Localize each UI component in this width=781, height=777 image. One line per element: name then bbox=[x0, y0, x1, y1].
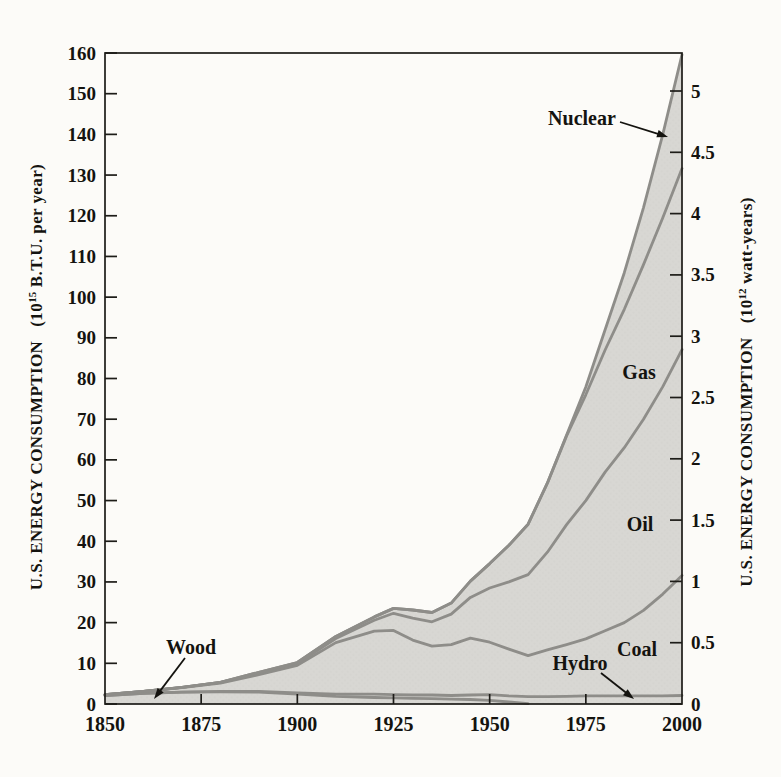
left-axis-title-text: U.S. ENERGY CONSUMPTION bbox=[27, 341, 46, 590]
chart-canvas: 0102030405060708090100110120130140150160… bbox=[0, 0, 781, 777]
y-left-tick-label: 150 bbox=[68, 83, 97, 104]
y-left-tick-label: 140 bbox=[68, 124, 97, 145]
us-energy-consumption-figure: 0102030405060708090100110120130140150160… bbox=[0, 0, 781, 777]
x-tick-label: 1925 bbox=[374, 713, 414, 735]
y-left-tick-label: 100 bbox=[68, 287, 97, 308]
y-left-tick-label: 10 bbox=[77, 653, 96, 674]
y-right-tick-label: 0 bbox=[691, 694, 701, 715]
y-right-tick-label: 3 bbox=[691, 326, 701, 347]
left-axis-unit: (1015 B.T.U. per year) bbox=[27, 164, 46, 327]
x-tick-label: 1850 bbox=[85, 713, 125, 735]
y-left-tick-label: 120 bbox=[68, 205, 97, 226]
y-left-tick-label: 20 bbox=[77, 612, 96, 633]
y-right-tick-label: 0.5 bbox=[691, 632, 715, 653]
x-tick-label: 1975 bbox=[566, 713, 606, 735]
y-left-tick-label: 130 bbox=[68, 165, 97, 186]
left-axis-exponent: 15 bbox=[26, 292, 38, 303]
y-right-tick-label: 2 bbox=[691, 448, 701, 469]
y-right-tick-label: 3.5 bbox=[691, 264, 715, 285]
y-right-tick-label: 4.5 bbox=[691, 142, 715, 163]
y-right-tick-label: 5 bbox=[691, 81, 701, 102]
x-tick-label: 1900 bbox=[277, 713, 317, 735]
y-left-tick-label: 60 bbox=[77, 449, 96, 470]
y-right-tick-label: 1 bbox=[691, 571, 701, 592]
annotation-label-coal: Coal bbox=[617, 638, 657, 660]
y-left-tick-label: 30 bbox=[77, 571, 96, 592]
left-axis-title: U.S. ENERGY CONSUMPTION(1015 B.T.U. per … bbox=[26, 164, 47, 590]
annotation-label-wood: Wood bbox=[166, 636, 216, 658]
y-left-tick-label: 160 bbox=[68, 43, 97, 64]
y-right-tick-label: 1.5 bbox=[691, 510, 715, 531]
y-left-tick-label: 80 bbox=[77, 368, 96, 389]
annotation-arrow-nuclear bbox=[620, 122, 660, 135]
y-left-tick-label: 0 bbox=[87, 694, 97, 715]
right-axis-title-text: U.S. ENERGY CONSUMPTION bbox=[737, 337, 756, 586]
annotation-label-hydro: Hydro bbox=[552, 652, 607, 675]
y-left-tick-label: 50 bbox=[77, 490, 96, 511]
annotation-label-nuclear: Nuclear bbox=[548, 107, 616, 129]
right-axis-unit: (1012 watt-years) bbox=[737, 197, 756, 323]
right-axis-title: U.S. ENERGY CONSUMPTION(1012 watt-years) bbox=[736, 197, 757, 587]
x-tick-label: 2000 bbox=[662, 713, 702, 735]
y-left-tick-label: 40 bbox=[77, 531, 96, 552]
y-left-tick-label: 110 bbox=[69, 246, 96, 267]
y-left-tick-label: 90 bbox=[77, 327, 96, 348]
y-right-tick-label: 2.5 bbox=[691, 387, 715, 408]
y-right-tick-label: 4 bbox=[691, 203, 701, 224]
consumption-area-texture bbox=[105, 55, 682, 704]
x-tick-label: 1875 bbox=[181, 713, 221, 735]
y-left-tick-label: 70 bbox=[77, 409, 96, 430]
annotation-label-oil: Oil bbox=[627, 513, 654, 535]
annotation-label-gas: Gas bbox=[622, 361, 656, 383]
x-tick-label: 1950 bbox=[470, 713, 510, 735]
right-axis-exponent: 12 bbox=[736, 288, 748, 299]
